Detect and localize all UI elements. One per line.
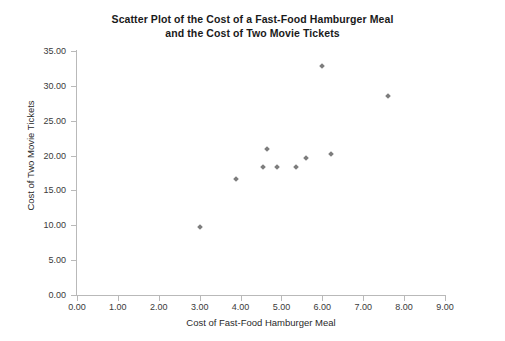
x-tick-mark: [159, 296, 160, 301]
y-axis-title: Cost of Two Movie Tickets: [25, 56, 36, 256]
y-tick-label: 30.00: [14, 81, 66, 91]
y-tick-label: 0.00: [14, 290, 66, 300]
y-tick-mark: [71, 121, 76, 122]
y-tick-label: 35.00: [14, 46, 66, 56]
x-tick-label: 3.00: [178, 302, 222, 312]
data-point: [264, 146, 270, 152]
plot-area: [77, 51, 445, 295]
x-axis-line: [76, 295, 446, 296]
y-tick-mark: [71, 156, 76, 157]
data-point: [319, 63, 325, 69]
chart-title: Scatter Plot of the Cost of a Fast-Food …: [0, 12, 505, 40]
y-tick-mark: [71, 260, 76, 261]
x-tick-label: 2.00: [137, 302, 181, 312]
data-point: [328, 151, 334, 157]
y-tick-mark: [71, 86, 76, 87]
x-tick-label: 4.00: [219, 302, 263, 312]
y-tick-label: 10.00: [14, 220, 66, 230]
data-point: [197, 224, 203, 230]
x-axis-title: Cost of Fast-Food Hamburger Meal: [77, 317, 445, 328]
data-point: [275, 165, 281, 171]
x-tick-mark: [200, 296, 201, 301]
y-tick-label: 25.00: [14, 116, 66, 126]
y-tick-mark: [71, 295, 76, 296]
x-tick-mark: [241, 296, 242, 301]
x-tick-label: 6.00: [300, 302, 344, 312]
chart-title-line-1: Scatter Plot of the Cost of a Fast-Food …: [112, 13, 394, 25]
data-point: [385, 93, 391, 99]
y-tick-mark: [71, 51, 76, 52]
y-tick-label: 20.00: [14, 151, 66, 161]
x-tick-mark: [77, 296, 78, 301]
data-point: [260, 165, 266, 171]
y-tick-mark: [71, 225, 76, 226]
x-tick-label: 7.00: [341, 302, 385, 312]
x-tick-label: 1.00: [96, 302, 140, 312]
data-point: [293, 165, 299, 171]
x-tick-mark: [404, 296, 405, 301]
chart-title-line-2: and the Cost of Two Movie Tickets: [0, 26, 505, 40]
data-point: [234, 176, 240, 182]
x-tick-mark: [281, 296, 282, 301]
y-tick-label: 15.00: [14, 185, 66, 195]
x-tick-label: 9.00: [423, 302, 467, 312]
x-tick-mark: [445, 296, 446, 301]
x-tick-label: 0.00: [55, 302, 99, 312]
x-tick-label: 5.00: [259, 302, 303, 312]
x-tick-label: 8.00: [382, 302, 426, 312]
x-tick-mark: [118, 296, 119, 301]
y-tick-mark: [71, 190, 76, 191]
x-tick-mark: [322, 296, 323, 301]
x-tick-mark: [363, 296, 364, 301]
y-tick-label: 5.00: [14, 255, 66, 265]
data-point: [303, 155, 309, 161]
scatter-plot-figure: Scatter Plot of the Cost of a Fast-Food …: [0, 0, 505, 341]
